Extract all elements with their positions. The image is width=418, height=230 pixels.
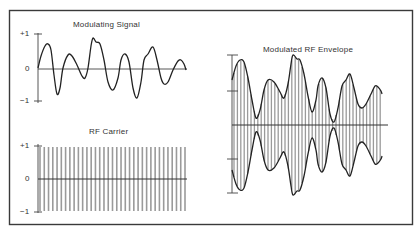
modulating-signal-curve (38, 38, 186, 98)
carrier-tick-zero: 0 (25, 174, 29, 183)
rf-carrier-title: RF Carrier (89, 127, 128, 136)
modulating-signal-title: Modulating Signal (73, 20, 140, 29)
figure: Modulating Signal +1 0 −1 RF Carrier +1 … (0, 0, 418, 230)
diagram-canvas (0, 0, 418, 230)
carrier-tick-minus1: −1 (20, 207, 29, 216)
mod-tick-zero: 0 (25, 64, 29, 73)
modulated-rf-envelope-title: Modulated RF Envelope (263, 45, 353, 54)
mod-tick-plus1: +1 (20, 29, 29, 38)
carrier-tick-plus1: +1 (20, 141, 29, 150)
mod-tick-minus1: −1 (20, 96, 29, 105)
